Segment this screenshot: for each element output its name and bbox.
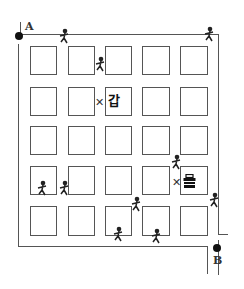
x-mark-icon: ✕ (95, 97, 104, 108)
city-block (180, 87, 208, 116)
walking-person-icon (170, 154, 182, 172)
walking-person-icon (130, 196, 142, 214)
marker-gap-label: 갑 (108, 94, 120, 107)
city-block (68, 126, 95, 155)
city-block (30, 46, 57, 75)
walking-person-icon (36, 180, 48, 198)
city-block (180, 206, 208, 236)
route-map: A B ✕ 갑 ✕ (0, 0, 244, 289)
x-mark-icon: ✕ (172, 177, 181, 188)
walking-person-icon (58, 180, 70, 198)
start-point-label: A (25, 21, 34, 32)
city-block (68, 206, 95, 236)
city-block (105, 166, 132, 195)
end-point-label: B (213, 255, 222, 266)
walking-person-icon (58, 28, 70, 46)
city-block (30, 87, 57, 116)
bottom-road-line (18, 246, 207, 247)
walking-person-icon (208, 192, 220, 210)
left-road-line (18, 44, 19, 247)
city-block (142, 126, 170, 155)
city-block (30, 206, 57, 236)
walking-person-icon (112, 226, 124, 244)
city-block (30, 126, 57, 155)
city-block (105, 126, 132, 155)
top-road-line (18, 34, 219, 35)
city-block (68, 87, 95, 116)
walking-person-icon (150, 228, 162, 246)
city-block (142, 46, 170, 75)
city-block (68, 166, 95, 195)
city-block (142, 87, 170, 116)
city-block (142, 166, 170, 195)
box-icon (183, 173, 196, 187)
city-block (180, 46, 208, 75)
walking-person-icon (94, 56, 106, 74)
walking-person-icon (203, 26, 215, 44)
city-block (105, 46, 132, 75)
city-block (68, 46, 95, 75)
end-point-dot (213, 244, 221, 252)
city-block (180, 126, 208, 155)
start-point-dot (15, 32, 23, 40)
right-road-stub (218, 234, 228, 235)
bottom-road-drop (207, 246, 208, 274)
